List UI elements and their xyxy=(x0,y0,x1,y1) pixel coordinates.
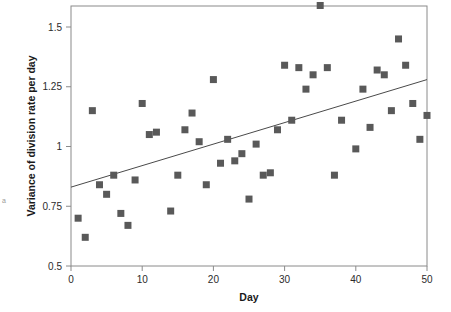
data-point-marker xyxy=(424,112,431,119)
x-tick-label: 10 xyxy=(137,274,149,285)
data-point-marker xyxy=(246,196,253,203)
data-point-marker xyxy=(274,126,281,133)
data-point-marker xyxy=(281,62,288,69)
data-point-marker xyxy=(124,222,131,229)
data-point-marker xyxy=(224,136,231,143)
data-point-marker xyxy=(253,141,260,148)
data-point-marker xyxy=(132,176,139,183)
y-tick-label: 1.5 xyxy=(48,22,62,33)
plot-frame xyxy=(71,6,427,266)
data-point-marker xyxy=(238,150,245,157)
data-point-marker xyxy=(374,67,381,74)
data-point-marker xyxy=(267,169,274,176)
data-point-marker xyxy=(409,100,416,107)
data-point-marker xyxy=(189,110,196,117)
y-axis-ticks: 0.50.7511.251.5 xyxy=(43,22,71,272)
x-axis-ticks: 01020304050 xyxy=(68,266,433,285)
data-point-marker xyxy=(388,107,395,114)
chart-figure: 0.50.7511.251.5 01020304050 Day Variance… xyxy=(0,0,451,312)
data-point-marker xyxy=(203,181,210,188)
data-point-marker xyxy=(416,136,423,143)
data-point-marker xyxy=(352,145,359,152)
data-point-marker xyxy=(117,210,124,217)
data-point-marker xyxy=(310,71,317,78)
x-tick-label: 50 xyxy=(421,274,433,285)
x-tick-label: 0 xyxy=(68,274,74,285)
data-point-marker xyxy=(288,117,295,124)
data-point-marker xyxy=(302,86,309,93)
data-point-marker xyxy=(96,181,103,188)
x-tick-label: 40 xyxy=(350,274,362,285)
data-point-marker xyxy=(167,208,174,215)
data-point-marker xyxy=(196,138,203,145)
data-point-marker xyxy=(231,157,238,164)
data-point-marker xyxy=(395,35,402,42)
data-point-marker xyxy=(75,215,82,222)
data-point-marker xyxy=(103,191,110,198)
data-point-marker xyxy=(338,117,345,124)
data-point-marker xyxy=(324,64,331,71)
data-point-marker xyxy=(181,126,188,133)
data-point-marker xyxy=(359,86,366,93)
data-point-marker xyxy=(82,234,89,241)
data-point-marker xyxy=(381,71,388,78)
data-point-marker xyxy=(110,172,117,179)
data-point-marker xyxy=(367,124,374,131)
edge-artifact-glyph: a xyxy=(2,197,6,204)
data-point-marker xyxy=(153,129,160,136)
data-point-marker xyxy=(139,100,146,107)
data-point-marker xyxy=(402,62,409,69)
data-point-marker xyxy=(317,2,324,9)
x-axis-title: Day xyxy=(239,291,258,303)
y-axis-title: Variance of division rate per day xyxy=(25,55,37,216)
y-tick-label: 0.75 xyxy=(43,201,63,212)
data-point-marker xyxy=(217,160,224,167)
data-point-marker xyxy=(174,172,181,179)
x-tick-label: 30 xyxy=(279,274,291,285)
data-point-marker xyxy=(331,172,338,179)
data-point-marker xyxy=(295,64,302,71)
y-tick-label: 1.25 xyxy=(43,81,63,92)
y-tick-label: 0.5 xyxy=(48,261,62,272)
scatter-plot-svg: 0.50.7511.251.5 01020304050 Day Variance… xyxy=(0,0,451,312)
data-point-marker xyxy=(260,172,267,179)
y-tick-label: 1 xyxy=(56,141,62,152)
data-point-marker xyxy=(210,76,217,83)
x-tick-label: 20 xyxy=(208,274,220,285)
data-point-marker xyxy=(146,131,153,138)
data-point-marker xyxy=(89,107,96,114)
